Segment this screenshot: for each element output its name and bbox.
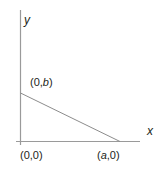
y-axis-label: y xyxy=(24,14,30,26)
y-intercept-suffix: ) xyxy=(49,76,53,88)
line-segment xyxy=(21,93,121,142)
x-intercept-suffix: ,0) xyxy=(107,149,120,161)
x-intercept-label: (a,0) xyxy=(97,149,120,161)
origin-label: (0,0) xyxy=(20,149,43,161)
y-intercept-label: (0,b) xyxy=(30,76,53,88)
y-intercept-prefix: (0, xyxy=(30,76,43,88)
coordinate-diagram: y x (0,b) (0,0) (a,0) xyxy=(0,0,166,173)
x-axis-label: x xyxy=(147,125,153,137)
